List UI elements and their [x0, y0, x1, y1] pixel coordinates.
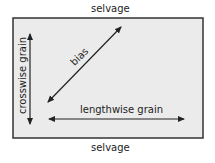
fabric-rectangle: [13, 18, 203, 138]
top-selvage-label: selvage: [91, 3, 130, 14]
bottom-selvage-label: selvage: [91, 142, 130, 153]
lengthwise-grain-label: lengthwise grain: [80, 104, 163, 115]
fabric-grain-diagram: [0, 0, 215, 163]
crosswise-grain-label: crosswise grain: [17, 37, 28, 114]
